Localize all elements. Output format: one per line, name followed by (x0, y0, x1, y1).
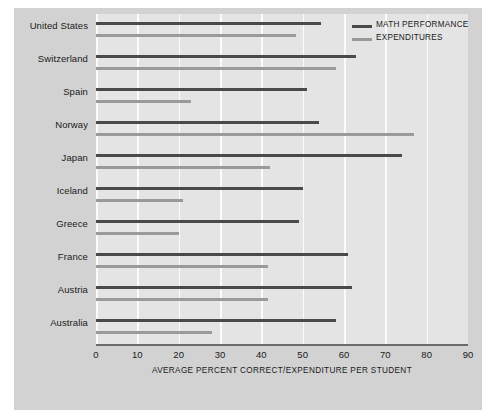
x-tick-label: 50 (297, 349, 308, 360)
x-axis-ticks: 0102030405060708090 (96, 349, 468, 365)
x-tick-label: 10 (132, 349, 143, 360)
bar-expenditures (96, 331, 212, 334)
bar-row (96, 212, 468, 245)
bar-math-performance (96, 253, 348, 256)
category-label: Austria (12, 284, 88, 295)
bar-math-performance (96, 121, 319, 124)
category-label: Switzerland (12, 53, 88, 64)
legend-item: EXPENDITURES (352, 33, 472, 45)
bar-row (96, 47, 468, 80)
legend-label: MATH PERFORMANCE (376, 20, 469, 29)
x-axis-title: AVERAGE PERCENT CORRECT/EXPENDITURE PER … (96, 366, 468, 375)
x-tick-label: 80 (421, 349, 432, 360)
bar-row (96, 179, 468, 212)
bar-row (96, 311, 468, 344)
bar-row (96, 146, 468, 179)
x-tick-label: 40 (256, 349, 267, 360)
category-label: Iceland (12, 185, 88, 196)
bar-math-performance (96, 154, 402, 157)
bar-math-performance (96, 22, 321, 25)
x-tick-label: 90 (463, 349, 474, 360)
legend-label: EXPENDITURES (376, 33, 443, 42)
category-label: United States (12, 20, 88, 31)
bar-expenditures (96, 133, 414, 136)
bar-expenditures (96, 166, 270, 169)
category-label: France (12, 251, 88, 262)
bar-expenditures (96, 298, 268, 301)
bar-expenditures (96, 232, 179, 235)
bar-expenditures (96, 199, 183, 202)
category-axis-labels: United StatesSwitzerlandSpainNorwayJapan… (14, 14, 94, 344)
bar-math-performance (96, 88, 307, 91)
bar-expenditures (96, 34, 296, 37)
bar-math-performance (96, 319, 336, 322)
legend-item: MATH PERFORMANCE (352, 20, 472, 32)
legend-swatch-icon (352, 38, 372, 41)
x-tick-label: 0 (93, 349, 98, 360)
x-tick-label: 30 (215, 349, 226, 360)
bar-row (96, 278, 468, 311)
bar-row (96, 245, 468, 278)
x-axis-line (96, 344, 468, 346)
chart-legend: MATH PERFORMANCEEXPENDITURES (352, 20, 472, 46)
bar-math-performance (96, 55, 356, 58)
bar-row (96, 113, 468, 146)
bar-expenditures (96, 100, 191, 103)
legend-swatch-icon (352, 25, 372, 28)
bar-expenditures (96, 67, 336, 70)
category-label: Australia (12, 317, 88, 328)
x-tick-label: 60 (339, 349, 350, 360)
category-label: Norway (12, 119, 88, 130)
bar-rows (96, 14, 468, 344)
bar-math-performance (96, 220, 299, 223)
bar-row (96, 80, 468, 113)
chart-figure: United StatesSwitzerlandSpainNorwayJapan… (0, 0, 482, 410)
x-tick-label: 20 (173, 349, 184, 360)
category-label: Japan (12, 152, 88, 163)
category-label: Spain (12, 86, 88, 97)
bar-math-performance (96, 286, 352, 289)
bar-expenditures (96, 265, 268, 268)
x-tick-label: 70 (380, 349, 391, 360)
category-label: Greece (12, 218, 88, 229)
bar-math-performance (96, 187, 303, 190)
